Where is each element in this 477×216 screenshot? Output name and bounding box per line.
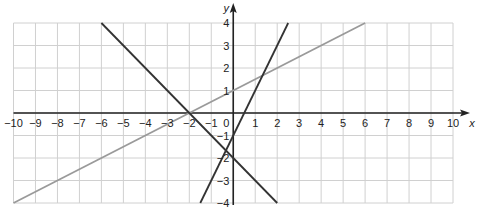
x-tick-label: −6 <box>95 117 108 129</box>
x-tick-label: −7 <box>73 117 86 129</box>
tick-labels: −10−9−8−7−6−5−4−3−2−112345678910−4−3−2−1… <box>4 2 475 209</box>
x-tick-label: 3 <box>296 117 302 129</box>
x-tick-label: 10 <box>447 117 459 129</box>
coordinate-graph: −10−9−8−7−6−5−4−3−2−112345678910−4−3−2−1… <box>0 0 477 216</box>
x-tick-label: −2 <box>183 117 196 129</box>
y-tick-label: 2 <box>223 62 229 74</box>
y-tick-label: −3 <box>217 175 230 187</box>
y-tick-label: −2 <box>217 152 230 164</box>
x-tick-label: 4 <box>318 117 324 129</box>
x-tick-label: 1 <box>252 117 258 129</box>
y-tick-label: 1 <box>223 85 229 97</box>
x-tick-label: −1 <box>205 117 218 129</box>
origin-label: 0 <box>223 117 229 129</box>
x-tick-label: 5 <box>340 117 346 129</box>
y-tick-label: 4 <box>223 17 229 29</box>
x-tick-label: 6 <box>362 117 368 129</box>
x-tick-label: −8 <box>51 117 64 129</box>
x-axis-label: x <box>468 117 475 129</box>
x-tick-label: −3 <box>161 117 174 129</box>
y-tick-label: −4 <box>217 197 230 209</box>
x-tick-label: 9 <box>428 117 434 129</box>
x-tick-label: −4 <box>139 117 152 129</box>
x-tick-label: −9 <box>29 117 42 129</box>
x-tick-label: 7 <box>384 117 390 129</box>
x-tick-label: −5 <box>117 117 130 129</box>
y-tick-label: 3 <box>223 40 229 52</box>
axes <box>14 3 471 205</box>
x-tick-label: −10 <box>4 117 23 129</box>
y-tick-label: −1 <box>217 130 230 142</box>
x-tick-label: 2 <box>274 117 280 129</box>
x-tick-label: 8 <box>406 117 412 129</box>
y-axis-label: y <box>223 2 231 14</box>
